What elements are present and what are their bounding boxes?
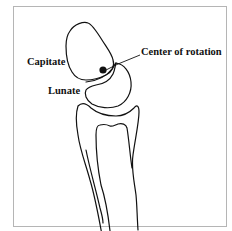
radius-shaft-line bbox=[86, 150, 103, 223]
lunate-bone bbox=[85, 63, 131, 108]
wrist-bones-diagram bbox=[0, 0, 232, 231]
leader-line bbox=[106, 55, 140, 70]
center-of-rotation-dot bbox=[99, 66, 106, 73]
center-of-rotation-label: Center of rotation bbox=[141, 47, 222, 58]
capitate-label: Capitate bbox=[27, 57, 66, 68]
capitate-bone bbox=[66, 22, 114, 80]
lunate-label: Lunate bbox=[48, 86, 80, 97]
